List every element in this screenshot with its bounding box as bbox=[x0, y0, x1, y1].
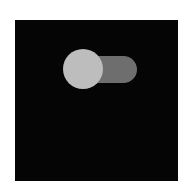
toggle-panel bbox=[15, 20, 178, 181]
toggle-switch[interactable] bbox=[63, 49, 138, 89]
toggle-knob[interactable] bbox=[63, 49, 103, 89]
